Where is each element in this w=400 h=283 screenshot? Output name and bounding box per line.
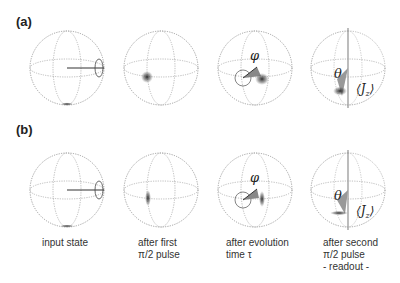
jz-label-a: ⟨Jz⟩ bbox=[356, 82, 374, 98]
sphere-b-readout bbox=[311, 150, 385, 230]
caption-line: π/2 pulse bbox=[138, 249, 180, 261]
sphere-b-input-state bbox=[30, 153, 104, 227]
sphere-a-after-first-pulse bbox=[124, 31, 198, 105]
theta-label-b: θ bbox=[334, 188, 342, 203]
caption-after-evolution: after evolution time τ bbox=[226, 237, 289, 261]
sphere-b-after-evolution bbox=[218, 153, 292, 227]
caption-line: - readout - bbox=[323, 261, 378, 273]
caption-line: after first bbox=[138, 237, 180, 249]
sphere-a-after-evolution bbox=[218, 31, 292, 105]
caption-line: π/2 pulse bbox=[323, 249, 378, 261]
caption-after-second-pulse: after second π/2 pulse - readout - bbox=[323, 237, 378, 273]
jz-label-b: ⟨Jz⟩ bbox=[356, 204, 374, 220]
sphere-b-after-first-pulse bbox=[124, 153, 198, 227]
phi-label-b: φ bbox=[250, 170, 260, 185]
sphere-a-input-state bbox=[30, 31, 104, 106]
caption-line: time τ bbox=[226, 249, 289, 261]
caption-after-first-pulse: after first π/2 pulse bbox=[138, 237, 180, 261]
caption-line: after second bbox=[323, 237, 378, 249]
sphere-a-readout bbox=[311, 28, 385, 108]
phi-label-a: φ bbox=[250, 48, 260, 63]
caption-line: input state bbox=[42, 237, 88, 249]
caption-input-state: input state bbox=[42, 237, 88, 249]
theta-label-a: θ bbox=[334, 66, 342, 81]
caption-line: after evolution bbox=[226, 237, 289, 249]
